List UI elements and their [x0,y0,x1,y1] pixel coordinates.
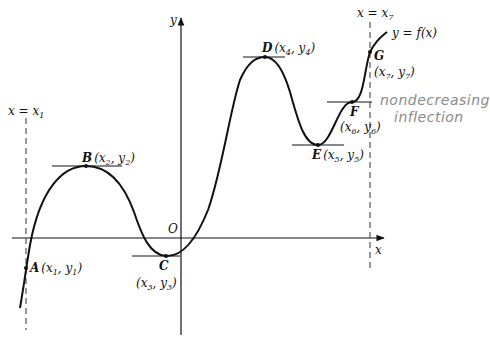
point-label-g-coord: (x7, y7) [374,65,415,81]
point-label-f-coord: (x6, y6) [340,120,381,136]
point-d-marker [263,55,267,59]
point-label-e: E(x5, y5) [311,148,364,164]
point-label-f-name: F [349,105,360,119]
origin-label: O [168,222,178,236]
y-axis-label: y [169,13,177,27]
annotation-nondecreasing: nondecreasing [380,92,490,108]
guide-label-x1: x = x1 [8,104,44,120]
x-axis-label: x [375,243,382,257]
function-curve [20,32,387,308]
guide-label-x7: x = x7 [357,6,394,22]
point-label-c-name: C [159,259,169,273]
point-a-marker [24,266,28,270]
point-label-c-coord: (x3, y3) [136,276,177,292]
graph-canvas: y x O x = x1 x = x7 y = f(x) A(x1, y1) B… [0,0,490,344]
point-g-marker [368,50,372,54]
point-e-marker [316,143,320,147]
point-f-marker [350,100,354,104]
point-label-g-name: G [374,49,384,63]
point-label-b: B(x2, y2) [81,151,135,167]
curve-label: y = f(x) [391,26,437,40]
annotation-inflection: inflection [394,109,464,125]
function-graph-figure: y x O x = x1 x = x7 y = f(x) A(x1, y1) B… [0,0,490,344]
point-label-a: A(x1, y1) [29,261,82,277]
point-label-d: D(x4, y4) [261,41,315,57]
point-c-marker [164,254,168,258]
